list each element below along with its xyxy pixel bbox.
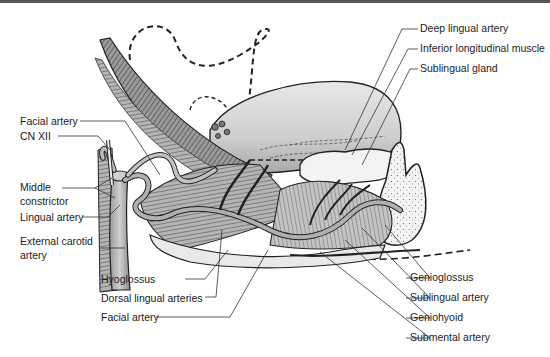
label-facial-artery-lower: Facial artery [101, 311, 159, 324]
label-facial-artery-upper: Facial artery [20, 115, 78, 128]
label-sublingual-artery: Sublingual artery [410, 291, 489, 304]
label-geniohyoid: Geniohyoid [410, 311, 463, 324]
label-deep-lingual-artery: Deep lingual artery [420, 22, 508, 35]
label-middle-constrictor-line1: Middle [20, 181, 51, 194]
label-external-carotid-line2: artery [20, 249, 47, 262]
label-external-carotid-line1: External carotid [20, 235, 93, 248]
label-inferior-longitudinal-muscle: Inferior longitudinal muscle [420, 42, 545, 55]
label-hyoglossus: Hyoglossus [101, 273, 155, 286]
label-dorsal-lingual-arteries: Dorsal lingual arteries [101, 292, 203, 305]
label-submental-artery: Submental artery [410, 331, 490, 344]
label-cn-xii: CN XII [20, 130, 51, 143]
sublingual-gland [300, 149, 397, 185]
label-lingual-artery: Lingual artery [20, 211, 84, 224]
label-sublingual-gland: Sublingual gland [420, 62, 498, 75]
label-genioglossus: Genioglossus [410, 271, 474, 284]
label-middle-constrictor-line2: constrictor [20, 195, 68, 208]
